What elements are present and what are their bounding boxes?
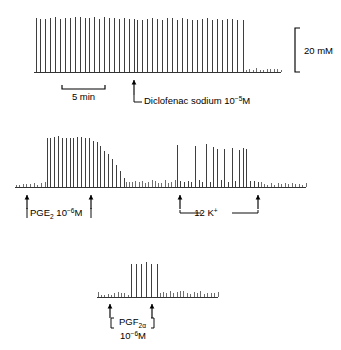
pre-pgf2a-baseline: [98, 292, 128, 297]
marker-arrowhead: [178, 195, 183, 200]
potassium-label: 12 K+: [194, 207, 218, 218]
quiescent-baseline: [246, 68, 281, 72]
pge2-start-marker: [25, 195, 30, 209]
traces-layer: [15, 17, 306, 297]
marker-arrowhead: [256, 195, 261, 200]
pgf2a-label: PGF2α: [119, 316, 146, 329]
panel-pge2-k: [15, 136, 306, 187]
pgf2a-concentration-label: 10−6M: [120, 330, 146, 341]
label-text: PGE: [30, 207, 50, 218]
label-subscript: 2α: [139, 322, 147, 329]
pre-pge2-baseline: [16, 182, 45, 187]
k-start-marker: [178, 195, 183, 209]
horizontal-scale-label: 5 min: [72, 91, 95, 102]
pge2-response-burst: [47, 136, 124, 187]
post-pge2-washout: [126, 180, 175, 187]
post-k-baseline: [261, 182, 306, 187]
pge2-end-marker: [89, 195, 94, 209]
markers-layer: [25, 80, 261, 328]
diclofenac-label: Diclofenac sodium 10−5M: [144, 95, 250, 106]
horizontal-scale-bar: [62, 85, 105, 89]
marker-leader-line: [134, 95, 142, 102]
pgf2a-end-marker: [150, 304, 155, 318]
k-end-marker: [256, 195, 261, 209]
label-tail: M: [74, 207, 82, 218]
pre-drug-contractions: [36, 17, 134, 72]
marker-arrowhead: [150, 304, 155, 309]
label-text: Diclofenac sodium 10: [144, 95, 235, 106]
vertical-scale-label: 20 mM: [304, 45, 333, 56]
marker-arrowhead: [89, 195, 94, 200]
post-drug-contractions: [137, 18, 243, 72]
label-text: 12 K: [194, 207, 214, 218]
k-response-burst: [177, 144, 258, 187]
vertical-scale-bar: [295, 28, 300, 72]
labels-layer: Diclofenac sodium 10−5MPGE2 10−6M12 K+PG…: [30, 95, 250, 341]
pgf2a-start-marker: [108, 304, 113, 318]
label-superscript: +: [214, 207, 218, 214]
panel-pgf2a: [97, 262, 218, 297]
diclofenac-marker: [132, 80, 142, 102]
marker-arrowhead: [25, 195, 30, 200]
post-pgf2a-baseline: [160, 291, 218, 297]
pgf2a-response-burst: [131, 262, 157, 297]
potassium-connector: [180, 210, 258, 213]
label-mid: 10: [54, 207, 67, 218]
figure-canvas: 20 mM5 min Diclofenac sodium 10−5MPGE2 1…: [0, 0, 341, 350]
label-tail: M: [138, 330, 146, 341]
pge2-label: PGE2 10−6M: [30, 207, 82, 220]
recording-figure: 20 mM5 min Diclofenac sodium 10−5MPGE2 1…: [0, 0, 341, 350]
label-tail: M: [242, 95, 250, 106]
label-text: PGF: [119, 316, 139, 327]
marker-arrowhead: [132, 80, 137, 85]
label-text: 10: [120, 330, 131, 341]
marker-arrowhead: [108, 304, 113, 309]
panel-diclofenac: [34, 17, 281, 72]
